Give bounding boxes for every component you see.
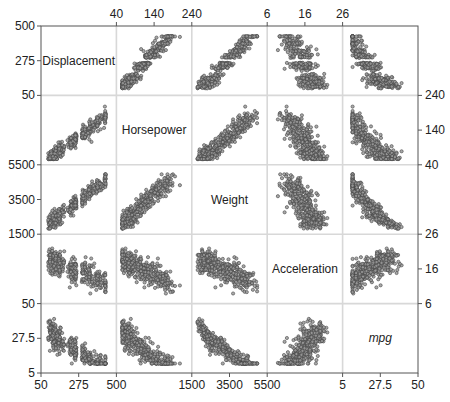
scatter-cell <box>276 317 329 365</box>
tick-label: 6 <box>425 297 432 311</box>
tick-label: 6 <box>264 7 271 21</box>
tick-label: 275 <box>15 54 35 68</box>
tick-label: 50 <box>22 88 36 102</box>
tick-label: 1500 <box>8 227 35 241</box>
tick-label: 3500 <box>216 378 243 392</box>
scatter-cell <box>276 173 329 230</box>
tick-label: 140 <box>425 123 445 137</box>
scatter-cell <box>351 35 403 91</box>
variable-label: Weight <box>211 193 249 207</box>
scatter-cell <box>196 247 259 295</box>
tick-label: 50 <box>411 378 425 392</box>
tick-label: 240 <box>182 7 202 21</box>
scatter-cell <box>351 247 403 295</box>
tick-label: 50 <box>34 378 48 392</box>
tick-label: 5500 <box>254 378 281 392</box>
tick-label: 26 <box>336 7 350 21</box>
scatter-cell <box>196 317 259 365</box>
tick-label: 50 <box>22 297 36 311</box>
tick-label: 5 <box>339 378 346 392</box>
scatter-cell <box>121 173 182 230</box>
variable-label: Displacement <box>42 54 115 68</box>
variable-label: Acceleration <box>272 262 338 276</box>
tick-label: 16 <box>425 262 439 276</box>
tick-label: 27.5 <box>12 331 36 345</box>
scatter-cell <box>351 105 403 161</box>
tick-label: 500 <box>106 378 126 392</box>
tick-label: 40 <box>425 158 439 172</box>
scatter-cell <box>121 247 182 295</box>
scatter-cell <box>196 105 259 161</box>
scatter-cell <box>47 105 108 161</box>
tick-label: 1500 <box>178 378 205 392</box>
scatter-cell <box>121 317 182 365</box>
scatter-cell <box>276 35 329 91</box>
scatter-matrix-chart: DisplacementHorsepowerWeightAcceleration… <box>0 0 450 402</box>
tick-label: 27.5 <box>369 378 393 392</box>
tick-label: 240 <box>425 88 445 102</box>
tick-label: 40 <box>110 7 124 21</box>
scatter-cell <box>196 35 259 91</box>
scatter-cell <box>276 105 329 161</box>
tick-label: 275 <box>69 378 89 392</box>
variable-label: Horsepower <box>122 123 187 137</box>
scatter-cell <box>47 247 108 295</box>
variable-label: mpg <box>369 331 393 345</box>
tick-label: 5500 <box>8 158 35 172</box>
tick-label: 26 <box>425 227 439 241</box>
tick-label: 16 <box>298 7 312 21</box>
scatter-cell <box>47 317 108 365</box>
tick-label: 3500 <box>8 193 35 207</box>
tick-label: 140 <box>144 7 164 21</box>
scatter-cell <box>47 173 108 230</box>
tick-label: 500 <box>15 19 35 33</box>
scatter-cell <box>121 35 182 91</box>
scatter-cell <box>351 173 403 230</box>
tick-label: 5 <box>28 366 35 380</box>
variable-labels: DisplacementHorsepowerWeightAcceleration… <box>42 54 392 346</box>
